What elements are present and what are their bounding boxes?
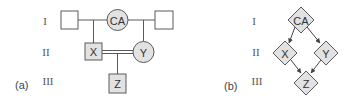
- male-node-left-parent: [61, 11, 78, 29]
- generation-label-iii: III: [43, 75, 54, 87]
- svg-text:Y: Y: [322, 48, 330, 60]
- generation-label-ii: II: [42, 46, 50, 58]
- svg-text:X: X: [90, 46, 98, 58]
- node-z-b: Z: [294, 71, 318, 95]
- figure: I II III (a) CA X Y Z: [0, 0, 353, 101]
- svg-text:CA: CA: [110, 15, 126, 27]
- svg-text:X: X: [281, 48, 289, 60]
- generation-label-i-b: I: [252, 15, 256, 27]
- node-ca-b: CA: [288, 7, 314, 33]
- female-node-ca: CA: [107, 10, 128, 31]
- male-node-z: Z: [109, 74, 126, 93]
- node-y-b: Y: [314, 41, 338, 65]
- generation-label-ii-b: II: [252, 46, 260, 58]
- generation-label-iii-b: III: [252, 75, 263, 87]
- generation-label-i: I: [43, 15, 47, 27]
- panel-b-label: (b): [224, 80, 237, 92]
- male-node-x: X: [85, 43, 102, 60]
- edge-ca-y: [307, 27, 320, 43]
- svg-text:CA: CA: [293, 15, 309, 27]
- node-x-b: X: [273, 41, 297, 65]
- panel-a-label: (a): [15, 79, 28, 91]
- svg-text:Z: Z: [303, 78, 310, 90]
- female-node-y: Y: [133, 42, 154, 63]
- edge-y-z: [311, 60, 321, 73]
- panel-b-dag: I II III (b) CA X Y Z: [224, 7, 338, 95]
- edge-x-z: [291, 60, 301, 73]
- edge-ca-x: [289, 27, 295, 43]
- svg-text:Z: Z: [114, 78, 121, 90]
- svg-text:Y: Y: [140, 47, 148, 59]
- male-node-right-parent: [155, 11, 173, 29]
- panel-a-pedigree: I II III (a) CA X Y Z: [15, 10, 173, 94]
